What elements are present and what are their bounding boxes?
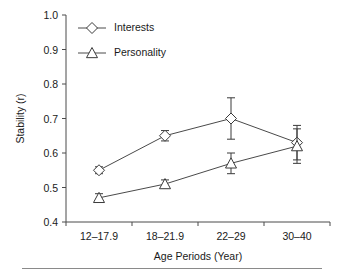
series-interests-line — [99, 119, 297, 171]
series-interests-marker-diamond-1 — [160, 130, 171, 141]
y-tick-label-6: 1.0 — [43, 9, 58, 21]
series-personality — [94, 129, 303, 203]
series-interests-marker-diamond-2 — [226, 113, 237, 124]
x-tick-label-0: 12–17.9 — [80, 230, 118, 242]
y-tick-label-2: 0.6 — [43, 147, 58, 159]
legend-entry-interests[interactable]: Interests — [78, 21, 154, 34]
x-tick-label-3: 30–40 — [282, 230, 311, 242]
legend-label-0: Interests — [114, 21, 154, 33]
legend-marker-diamond-icon — [87, 23, 98, 34]
series-personality-marker-triangle-2 — [226, 158, 237, 168]
legend-entry-personality[interactable]: Personality — [78, 46, 167, 58]
footer-divider — [22, 268, 322, 269]
legend-label-1: Personality — [114, 46, 167, 58]
x-tick-label-2: 22–29 — [216, 230, 245, 242]
series-personality-line — [99, 146, 297, 198]
series-interests — [94, 98, 303, 176]
y-tick-label-0: 0.4 — [43, 216, 58, 228]
x-tick-label-1: 18–21.9 — [146, 230, 184, 242]
x-axis-title: Age Periods (Year) — [154, 250, 242, 262]
y-tick-label-5: 0.9 — [43, 44, 58, 56]
y-tick-label-4: 0.8 — [43, 78, 58, 90]
figure-container: 0.40.50.60.70.80.91.012–17.918–21.922–29… — [0, 0, 346, 276]
stability-line-chart: 0.40.50.60.70.80.91.012–17.918–21.922–29… — [0, 0, 346, 276]
y-tick-label-1: 0.5 — [43, 182, 58, 194]
y-axis-title: Stability (r) — [14, 93, 26, 143]
y-tick-label-3: 0.7 — [43, 113, 58, 125]
